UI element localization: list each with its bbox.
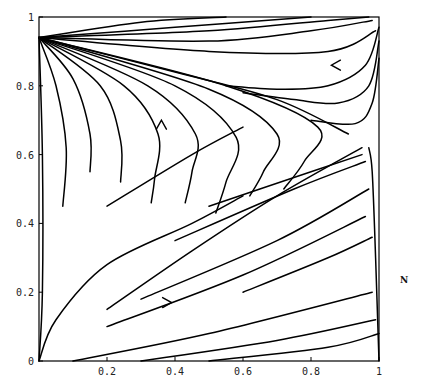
trajectory-lower-curve-1: [39, 196, 243, 361]
trajectory-curves: [39, 17, 379, 361]
arrow-right-icon: [163, 298, 172, 308]
x-tick-label: 0.6: [234, 366, 252, 377]
y-tick-label: 0.8: [16, 81, 34, 92]
direction-arrows: [156, 60, 340, 307]
x-tick-label: 0.8: [302, 366, 320, 377]
phase-portrait-chart: 0.20.40.60.81 00.20.40.60.81 N: [0, 0, 425, 384]
y-tick-label: 0.4: [16, 218, 34, 229]
arrow-left-icon: [331, 60, 340, 70]
trajectory-ray-6: [175, 162, 365, 241]
y-tick-label: 1: [28, 12, 34, 23]
x-axis-ticks: 0.20.40.60.81: [98, 357, 382, 377]
y-tick-label: 0.6: [16, 150, 34, 161]
arrow-up-icon: [156, 120, 166, 129]
x-tick-label: 1: [376, 366, 382, 377]
trajectory-hairpin-2: [39, 38, 280, 196]
x-tick-label: 0.2: [98, 366, 116, 377]
side-axis-label: N: [400, 275, 408, 285]
plot-frame: [39, 17, 379, 361]
y-tick-label: 0.2: [16, 287, 34, 298]
trajectory-upper-right-return-1: [226, 27, 379, 89]
y-tick-label: 0: [28, 356, 34, 367]
x-tick-label: 0.4: [166, 366, 184, 377]
trajectory-diag-1: [107, 148, 362, 310]
trajectory-right-wall: [369, 148, 379, 361]
trajectory-ray-8: [209, 155, 362, 207]
trajectory-upper-right-return-3: [311, 58, 379, 124]
trajectory-ray-1: [107, 217, 365, 327]
